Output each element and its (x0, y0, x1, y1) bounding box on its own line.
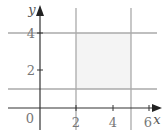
y-tick-label-4: 4 (27, 26, 35, 41)
y-axis-label: y (27, 2, 36, 17)
y-tick-label-2: 2 (27, 63, 35, 78)
x-tick-label-6: 6 (144, 115, 152, 130)
coordinate-plane: 0 2 4 6 2 4 x y (0, 0, 165, 134)
x-tick-label-4: 4 (109, 115, 117, 130)
origin-label: 0 (26, 111, 34, 126)
shaded-region (76, 33, 131, 89)
x-tick-label-2: 2 (72, 115, 80, 130)
x-axis-arrow-icon (152, 104, 162, 112)
x-axis-label: x (153, 112, 161, 127)
y-axis-arrow-icon (36, 5, 44, 16)
